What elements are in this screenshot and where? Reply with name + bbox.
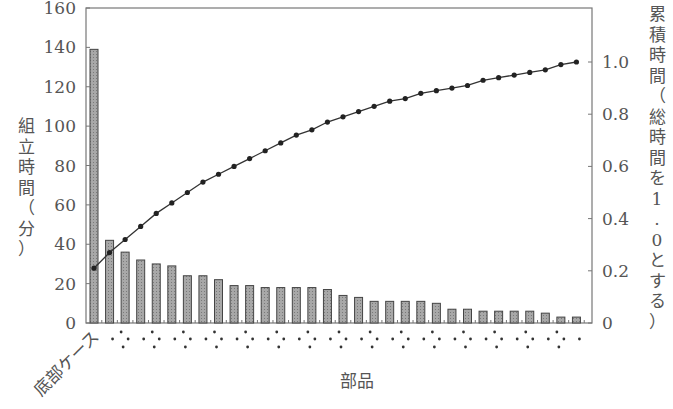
cumulative-point xyxy=(247,156,252,161)
bar xyxy=(90,49,98,323)
bar xyxy=(308,288,316,323)
cumulative-point xyxy=(558,62,563,67)
left-tick-label: 40 xyxy=(54,234,76,254)
bar xyxy=(510,311,518,323)
cumulative-point xyxy=(465,83,470,88)
left-tick-label: 20 xyxy=(54,274,76,294)
left-tick-label: 0 xyxy=(65,313,76,333)
cumulative-point xyxy=(294,132,299,137)
x-category-placeholder-dots xyxy=(111,331,581,349)
bar xyxy=(183,276,191,323)
bar xyxy=(355,297,363,323)
cumulative-point xyxy=(278,140,283,145)
cumulative-point xyxy=(169,200,174,205)
bar xyxy=(168,266,176,323)
bar xyxy=(370,301,378,323)
plot-frame xyxy=(86,8,592,323)
right-tick-label: 0.2 xyxy=(602,261,629,281)
cumulative-point xyxy=(123,237,128,242)
cumulative-point xyxy=(231,164,236,169)
bar xyxy=(464,309,472,323)
cumulative-point xyxy=(480,78,485,83)
cumulative-point xyxy=(154,211,159,216)
cumulative-point xyxy=(91,266,96,271)
left-tick-label: 60 xyxy=(54,195,76,215)
cumulative-point xyxy=(216,172,221,177)
bar xyxy=(417,301,425,323)
left-tick-label: 100 xyxy=(44,116,76,136)
cumulative-point xyxy=(574,59,579,64)
cumulative-point xyxy=(107,250,112,255)
bar xyxy=(199,276,207,323)
cumulative-point xyxy=(372,104,377,109)
bar-series xyxy=(90,49,584,323)
pareto-chart: 020406080100120140160 00.20.40.60.81.0 組… xyxy=(0,0,673,409)
cumulative-point xyxy=(543,67,548,72)
right-axis-title: 累積時間（総時間を1.0とする） xyxy=(649,4,666,332)
right-tick-label: 0.6 xyxy=(602,156,629,176)
bar xyxy=(526,311,534,323)
bar xyxy=(386,301,394,323)
right-tick-label: 0.8 xyxy=(602,104,629,124)
cumulative-point xyxy=(496,75,501,80)
cumulative-point xyxy=(356,109,361,114)
bar xyxy=(137,260,145,323)
cumulative-point xyxy=(340,114,345,119)
bar xyxy=(261,288,269,323)
cumulative-point xyxy=(200,179,205,184)
bar xyxy=(479,311,487,323)
cumulative-point xyxy=(387,99,392,104)
bar xyxy=(448,309,456,323)
cumulative-line-series xyxy=(91,59,579,270)
cumulative-point xyxy=(309,127,314,132)
right-tick-label: 0 xyxy=(602,313,613,333)
cumulative-point xyxy=(418,91,423,96)
bar xyxy=(215,280,223,323)
left-tick-label: 80 xyxy=(54,156,76,176)
right-tick-label: 1.0 xyxy=(602,52,629,72)
bar xyxy=(401,301,409,323)
bar xyxy=(277,288,285,323)
bar xyxy=(152,264,160,323)
cumulative-point xyxy=(403,96,408,101)
cumulative-point xyxy=(512,72,517,77)
bar xyxy=(323,290,331,323)
cumulative-point xyxy=(185,190,190,195)
bar xyxy=(230,286,238,323)
cumulative-point xyxy=(325,119,330,124)
bar xyxy=(495,311,503,323)
bar xyxy=(432,303,440,323)
left-tick-label: 120 xyxy=(44,77,76,97)
bar xyxy=(572,317,580,323)
left-tick-label: 140 xyxy=(44,37,76,57)
left-axis-title: 組立時間（分） xyxy=(18,116,35,259)
bar xyxy=(557,317,565,323)
cumulative-point xyxy=(138,224,143,229)
first-category-label: 底部ケース xyxy=(29,327,103,401)
right-axis-ticks: 00.20.40.60.81.0 xyxy=(588,52,629,333)
cumulative-point xyxy=(527,70,532,75)
cumulative-point xyxy=(434,88,439,93)
x-axis-title: 部品 xyxy=(340,371,374,391)
right-tick-label: 0.4 xyxy=(602,209,629,229)
cumulative-point xyxy=(449,86,454,91)
bar xyxy=(339,295,347,323)
bar xyxy=(292,288,300,323)
left-axis-ticks: 020406080100120140160 xyxy=(44,0,90,333)
left-tick-label: 160 xyxy=(44,0,76,18)
bar xyxy=(121,252,129,323)
cumulative-point xyxy=(263,148,268,153)
bar xyxy=(541,313,549,323)
bar xyxy=(246,286,254,323)
